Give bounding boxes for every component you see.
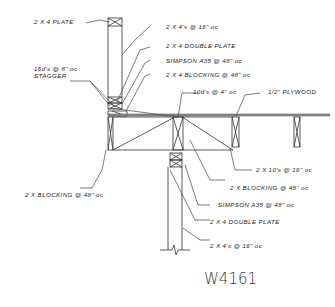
label-studs-lower: 2 X 4's @ 16" oc [209,242,263,249]
label-nails-stagger-1: 16d's @ 8" oc [34,65,78,72]
label-joists: 2 X 10's @ 16" oc [255,166,313,173]
label-blocking-left: 2 X BLOCKING @ 48" oc [24,191,104,198]
joist-3 [294,117,300,147]
label-simpson-upper: SIMPSON A35 @ 48" oc [166,57,243,64]
label-simpson-lower: SIMPSON A35 @ 48" oc [218,201,295,208]
framing-detail-drawing: 2 X 4 PLATE 2 X 4's @ 16" oc 2 X 4 DOUBL… [0,0,335,307]
diagonal-right [182,117,233,150]
joist-1 [173,117,183,150]
label-blocking-upper: 2 X 4 BLOCKING @ 48" oc [165,71,251,78]
label-top-plate: 2 X 4 PLATE [33,18,74,25]
label-double-plate-upper: 2 X 4 DOUBLE PLATE [165,42,236,49]
label-nails-10d: 10d's @ 4" oc [193,88,237,95]
label-nails-stagger-2: STAGGER [34,72,67,79]
lower-double-plate [170,153,182,167]
label-studs-upper: 2 X 4's @ 16" oc [165,23,219,30]
floor-system [108,115,330,167]
label-plywood: 1/2" PLYWOOD [268,88,317,95]
break-line [160,245,190,255]
drawing-id: W4161 [204,270,257,288]
label-double-plate-lower: 2 X 4 DOUBLE PLATE [209,218,280,225]
diagonal-left [113,117,175,150]
label-blocking-right: 2 X BLOCKING @ 48" oc [229,184,309,191]
joist-2 [232,117,239,147]
